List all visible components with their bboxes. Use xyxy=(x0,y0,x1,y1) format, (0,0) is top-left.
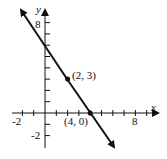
y-axis-label: y xyxy=(36,4,41,15)
x-tick-label-8: 8 xyxy=(132,116,138,127)
x-axis-label: x xyxy=(151,102,156,113)
point-label-4-0: (4, 0) xyxy=(64,116,88,127)
y-tick-label-8: 8 xyxy=(35,19,41,30)
data-line xyxy=(21,10,67,79)
point-2-3 xyxy=(65,77,70,82)
y-ticks xyxy=(45,23,50,136)
point-4-0 xyxy=(88,111,93,116)
x-tick-label-neg2: -2 xyxy=(12,116,21,127)
point-label-2-3: (2, 3) xyxy=(72,70,96,81)
y-tick-label-neg2: -2 xyxy=(31,130,40,141)
